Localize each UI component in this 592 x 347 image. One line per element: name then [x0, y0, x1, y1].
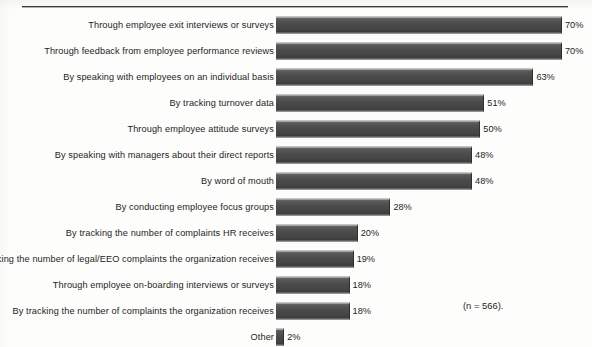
chart-page: Through employee exit interviews or surv…: [0, 0, 592, 347]
sample-size-note: (n = 566).: [463, 300, 503, 311]
bar: 18%: [276, 277, 350, 294]
category-label: Through employee on-boarding interviews …: [53, 280, 274, 291]
category-label: Through employee attitude surveys: [127, 124, 274, 135]
category-label: By tracking turnover data: [170, 98, 274, 109]
category-label: By speaking with managers about their di…: [55, 150, 274, 161]
bar-value-label: 51%: [487, 98, 505, 109]
bar-value-label: 70%: [565, 20, 583, 31]
chart-row: Through employee on-boarding interviews …: [0, 272, 592, 298]
category-label: By speaking with employees on an individ…: [63, 72, 274, 83]
bar: 63%: [276, 69, 533, 86]
bar-track: 70%: [276, 43, 562, 60]
chart-row: Through employee exit interviews or surv…: [0, 12, 592, 38]
chart-row: By tracking the number of complaints HR …: [0, 220, 592, 246]
category-label: By tracking the number of complaints HR …: [66, 228, 274, 239]
bar-value-label: 63%: [536, 72, 554, 83]
chart-row: By word of mouth48%: [0, 168, 592, 194]
chart-row: By conducting employee focus groups28%: [0, 194, 592, 220]
chart-row: By speaking with managers about their di…: [0, 142, 592, 168]
bar-track: 28%: [276, 199, 390, 216]
header-divider-rule-shadow: [22, 7, 568, 8]
bar-track: 50%: [276, 121, 480, 138]
bar-track: 70%: [276, 17, 562, 34]
bar: 19%: [276, 251, 354, 268]
bar-value-label: 48%: [475, 176, 493, 187]
bar: 50%: [276, 121, 480, 138]
bar-track: 2%: [276, 329, 284, 346]
bar-value-label: 48%: [475, 150, 493, 161]
category-label: By conducting employee focus groups: [116, 202, 274, 213]
bar: 51%: [276, 95, 484, 112]
bar-track: 48%: [276, 173, 472, 190]
cropped-title-sliver: [0, 0, 592, 4]
bar-value-label: 70%: [565, 46, 583, 57]
bar-track: 18%: [276, 277, 350, 294]
bar-track: 48%: [276, 147, 472, 164]
bar-value-label: 20%: [361, 228, 379, 239]
bar-value-label: 19%: [357, 254, 375, 265]
bar-value-label: 18%: [353, 280, 371, 291]
bar-value-label: 50%: [483, 124, 501, 135]
bar: 48%: [276, 147, 472, 164]
bar: 70%: [276, 43, 562, 60]
chart-row: By tracking turnover data51%: [0, 90, 592, 116]
category-label: Through employee exit interviews or surv…: [88, 20, 274, 31]
category-label: By tracking the number of legal/EEO comp…: [0, 254, 274, 265]
bar: 2%: [276, 329, 284, 346]
bar-value-label: 18%: [353, 306, 371, 317]
category-label: Through feedback from employee performan…: [44, 46, 274, 57]
bar-value-label: 2%: [287, 332, 300, 343]
chart-row: By tracking the number of legal/EEO comp…: [0, 246, 592, 272]
bar: 20%: [276, 225, 358, 242]
chart-row: Through employee attitude surveys50%: [0, 116, 592, 142]
bar-track: 51%: [276, 95, 484, 112]
bar: 48%: [276, 173, 472, 190]
chart-row: Through feedback from employee performan…: [0, 38, 592, 64]
horizontal-bar-chart: Through employee exit interviews or surv…: [0, 12, 592, 342]
bar-value-label: 28%: [393, 202, 411, 213]
category-label: By tracking the number of complaints the…: [12, 306, 274, 317]
bar-track: 19%: [276, 251, 354, 268]
category-label: Other: [251, 332, 274, 343]
category-label: By word of mouth: [201, 176, 274, 187]
chart-row: By speaking with employees on an individ…: [0, 64, 592, 90]
bar-track: 63%: [276, 69, 533, 86]
bar: 18%: [276, 303, 350, 320]
bar-track: 20%: [276, 225, 358, 242]
bar-track: 18%: [276, 303, 350, 320]
bar: 70%: [276, 17, 562, 34]
bar: 28%: [276, 199, 390, 216]
chart-row: Other2%: [0, 324, 592, 347]
